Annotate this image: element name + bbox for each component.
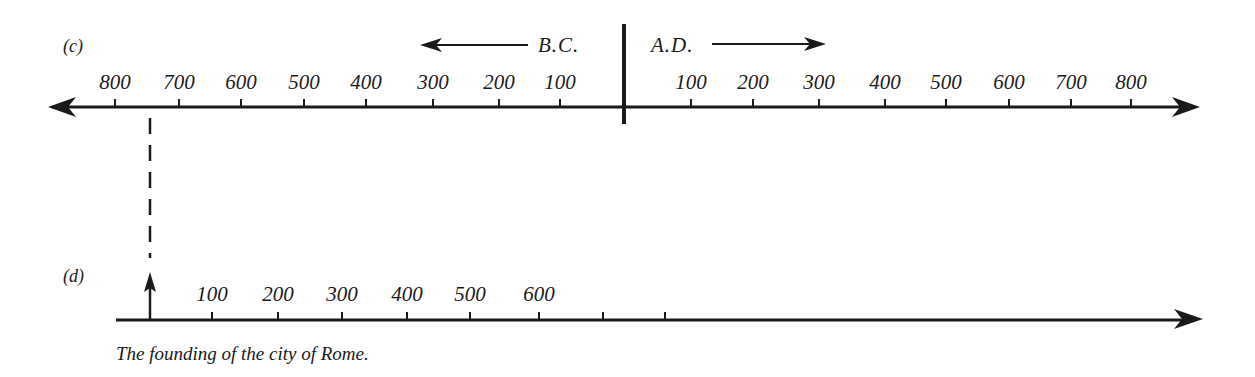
d-tick-label: 500 xyxy=(454,282,486,306)
bc-tick-label: 100 xyxy=(544,70,576,94)
timeline-c-label: (c) xyxy=(63,36,83,57)
timeline-c: (c) B.C. A.D. 80070060050040030020010010… xyxy=(48,24,1200,124)
timeline-d-ticks: 100200300400500600 xyxy=(196,282,665,320)
ad-tick-label: 700 xyxy=(1055,70,1087,94)
ad-tick-label: 300 xyxy=(802,70,835,94)
ad-label: A.D. xyxy=(649,33,694,57)
ad-indicator: A.D. xyxy=(649,33,826,57)
ad-tick-label: 400 xyxy=(869,70,901,94)
ad-tick-label: 600 xyxy=(993,70,1025,94)
bc-indicator: B.C. xyxy=(420,33,579,57)
bc-tick-label: 800 xyxy=(99,70,131,94)
d-tick-label: 600 xyxy=(523,282,555,306)
bc-tick-label: 500 xyxy=(288,70,320,94)
d-tick-label: 100 xyxy=(196,282,228,306)
d-tick-label: 300 xyxy=(325,282,358,306)
bc-tick-label: 200 xyxy=(483,70,515,94)
bc-label: B.C. xyxy=(538,33,579,57)
ad-tick-label: 100 xyxy=(675,70,707,94)
d-tick-label: 200 xyxy=(262,282,294,306)
bc-tick-label: 700 xyxy=(163,70,195,94)
timeline-d-label: (d) xyxy=(63,266,84,287)
caption: The founding of the city of Rome. xyxy=(116,343,369,364)
ad-tick-label: 800 xyxy=(1115,70,1147,94)
ad-tick-label: 200 xyxy=(737,70,769,94)
bc-tick-label: 300 xyxy=(416,70,449,94)
bc-tick-label: 600 xyxy=(225,70,257,94)
bc-tick-label: 400 xyxy=(350,70,382,94)
ad-tick-label: 500 xyxy=(930,70,962,94)
d-tick-label: 400 xyxy=(391,282,423,306)
timeline-d: (d) 100200300400500600 The founding of t… xyxy=(63,266,1203,364)
timeline-diagram: (c) B.C. A.D. 80070060050040030020010010… xyxy=(0,0,1255,377)
